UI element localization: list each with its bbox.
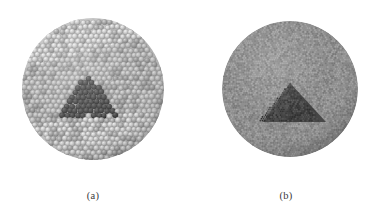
panel-a-caption: (a) xyxy=(0,190,186,201)
panel-b-particle-packing xyxy=(222,21,358,157)
panel-b-render xyxy=(222,14,358,166)
panel-a-globe-shading xyxy=(22,18,164,160)
figure-container: (a) xyxy=(0,0,379,219)
panel-b-globe-shading xyxy=(222,21,358,157)
panel-a-svg xyxy=(22,13,164,165)
figure-panel-b: (b) xyxy=(193,0,379,219)
panel-b-caption: (b) xyxy=(193,190,379,201)
figure-panel-a: (a) xyxy=(0,0,186,219)
panel-a-render xyxy=(22,13,164,165)
panel-b-svg xyxy=(222,14,358,166)
panel-a-sphere-packing xyxy=(22,18,164,161)
